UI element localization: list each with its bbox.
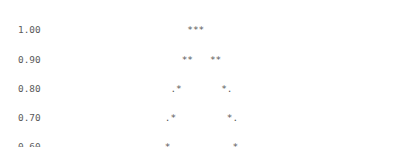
plot-row-0-80: 0.80 .* *. xyxy=(18,84,407,94)
plot-row-0-60: 0.60 .* * xyxy=(18,142,407,147)
plot-row-1-00: 1.00 *** xyxy=(18,25,407,35)
ascii-plot: 1.00 *** 0.90 ** ** 0.80 .* *. 0.70 .* *… xyxy=(18,6,407,147)
plot-row-0-70: 0.70 .* *. xyxy=(18,113,407,123)
plot-row-0-90: 0.90 ** ** xyxy=(18,55,407,65)
